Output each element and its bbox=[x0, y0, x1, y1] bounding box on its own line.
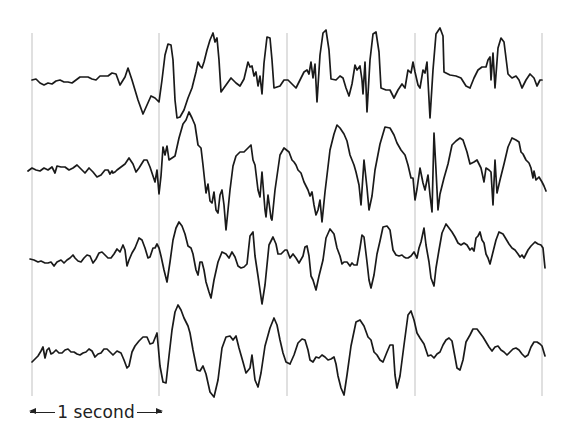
scale-bar-label: 1 second bbox=[55, 402, 137, 422]
right-arrow-icon bbox=[137, 412, 162, 413]
eeg-figure bbox=[0, 0, 588, 445]
left-arrow-icon bbox=[30, 412, 55, 413]
channel-4-trace bbox=[32, 305, 545, 397]
time-scale-bar: 1 second bbox=[30, 400, 162, 424]
